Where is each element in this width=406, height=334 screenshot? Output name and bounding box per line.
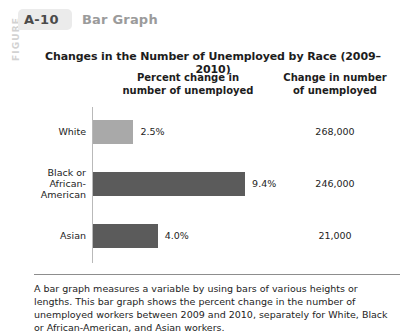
- bar-row-label-line: Black or: [30, 167, 86, 178]
- bar: [93, 224, 158, 248]
- figure-card: Changes in the Number of Unemployed by R…: [30, 31, 406, 329]
- figure-kind-label: Bar Graph: [82, 12, 158, 27]
- bar-row-label-line: White: [30, 126, 86, 137]
- bar-row-label: White: [30, 126, 86, 137]
- bar: [93, 172, 245, 196]
- bar-row-count: 246,000: [268, 178, 402, 189]
- bar-row: White 2.5% 268,000: [30, 107, 406, 159]
- bar-value-label: 2.5%: [140, 126, 164, 137]
- bar-row-label-line: African-: [30, 178, 86, 189]
- caption-divider: [34, 274, 400, 275]
- bar-row: Asian 4.0% 21,000: [30, 211, 406, 263]
- bar: [93, 120, 133, 144]
- column-header-count: Change in number of unemployed: [268, 71, 402, 97]
- bar-row: Black or African- American 9.4% 246,000: [30, 159, 406, 211]
- bar-value-label: 4.0%: [165, 230, 189, 241]
- figure-caption: A bar graph measures a variable by using…: [34, 282, 390, 334]
- figure-number: A-10: [24, 12, 59, 27]
- bar-row-count: 268,000: [268, 126, 402, 137]
- bar-row-count: 21,000: [268, 230, 402, 241]
- bar-row-label: Asian: [30, 230, 86, 241]
- column-header-count-line1: Change in number: [268, 71, 402, 84]
- bar-row-label-line: American: [30, 189, 86, 200]
- column-header-percent-line2: number of unemployed: [104, 84, 272, 97]
- column-header-percent-line1: Percent change in: [104, 71, 272, 84]
- bar-chart-plot: White 2.5% 268,000 Black or African- Ame…: [30, 107, 406, 263]
- bar-row-label: Black or African- American: [30, 167, 86, 200]
- column-header-count-line2: of unemployed: [268, 84, 402, 97]
- bar-row-label-line: Asian: [30, 230, 86, 241]
- column-header-percent: Percent change in number of unemployed: [104, 71, 272, 97]
